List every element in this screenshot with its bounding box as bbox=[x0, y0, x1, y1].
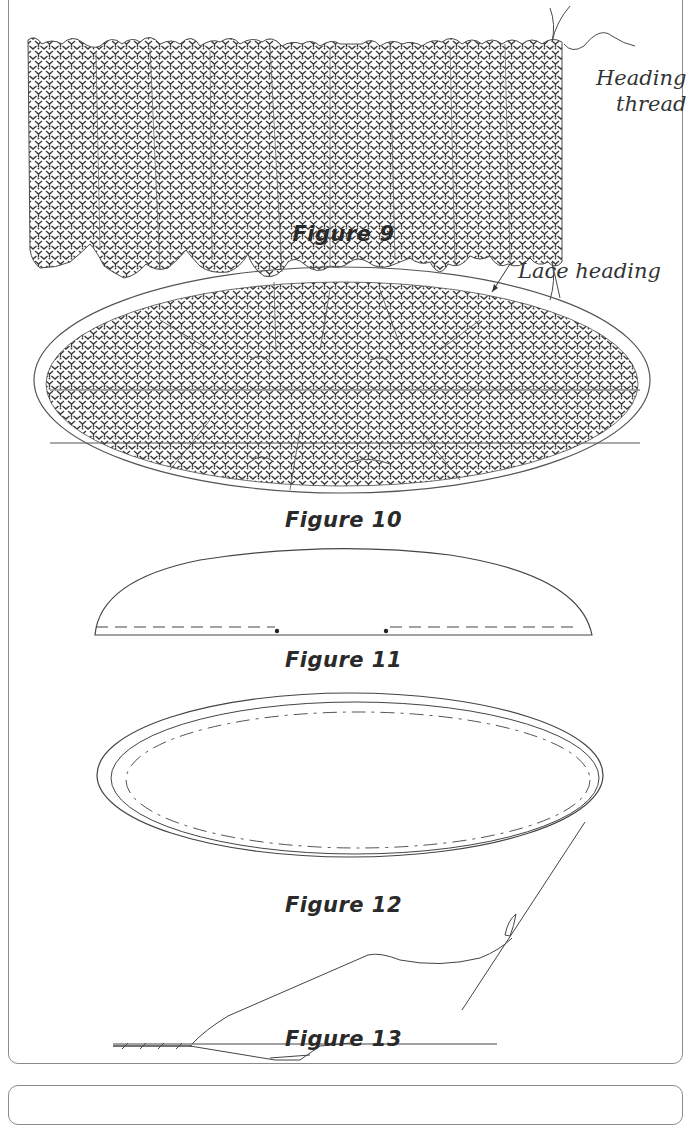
figure-11-half-oval bbox=[95, 549, 592, 635]
figure-10-lace-oval bbox=[34, 264, 650, 493]
figure-12-ellipses bbox=[97, 693, 603, 857]
figure-12-caption: Figure 12 bbox=[0, 893, 687, 917]
figure-11-caption: Figure 11 bbox=[0, 648, 687, 672]
figure-10-caption: Figure 10 bbox=[0, 508, 687, 532]
next-panel-edge bbox=[8, 1085, 683, 1125]
label-line-1: Heading bbox=[596, 65, 686, 91]
figure-9-lace-band bbox=[28, 6, 635, 300]
lace-heading-label: Lace heading bbox=[518, 258, 661, 284]
figure-13-needle-thread bbox=[113, 822, 585, 1060]
heading-thread-label: Heading thread bbox=[596, 65, 686, 117]
figure-13-caption: Figure 13 bbox=[0, 1027, 687, 1051]
figure-9-caption: Figure 9 bbox=[0, 222, 687, 246]
label-line-2: thread bbox=[596, 91, 686, 117]
